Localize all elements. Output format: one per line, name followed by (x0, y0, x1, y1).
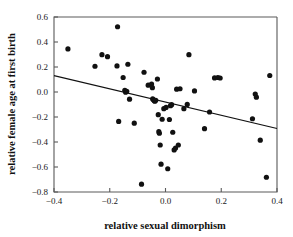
y-axis-title: relative female age at first birth (6, 33, 17, 175)
x-tick-label: −0.2 (102, 196, 118, 206)
plot-area-background (54, 17, 277, 192)
data-point (157, 131, 162, 136)
data-point (167, 117, 172, 122)
data-point (207, 109, 212, 114)
data-point (258, 138, 263, 143)
x-axis-tick-labels: −0.4−0.20.00.20.4 (46, 196, 283, 206)
data-point (124, 89, 129, 94)
data-point (158, 142, 163, 147)
data-point (127, 97, 132, 102)
data-point (170, 130, 175, 135)
data-point (132, 121, 137, 126)
data-point (121, 75, 126, 80)
data-point (99, 52, 104, 57)
y-tick-label: −0.8 (32, 187, 49, 197)
data-point (141, 70, 146, 75)
data-point (139, 182, 144, 187)
x-tick-label: 0.0 (160, 196, 172, 206)
data-point (158, 162, 163, 167)
data-point (192, 88, 197, 93)
data-point (267, 73, 272, 78)
y-axis-tick-labels: −0.8−0.6−0.4−0.20.00.20.40.6 (32, 12, 49, 197)
data-point (177, 86, 182, 91)
data-point (169, 102, 174, 107)
data-point (116, 119, 121, 124)
y-tick-label: −0.2 (32, 112, 48, 122)
data-point (156, 112, 161, 117)
x-tick-label: −0.4 (46, 196, 63, 206)
plot-frame (54, 17, 277, 192)
chart-canvas: −0.4−0.20.00.20.4 −0.8−0.6−0.4−0.20.00.2… (0, 0, 293, 237)
data-point (163, 105, 168, 110)
data-point (153, 98, 158, 103)
scatter-plot-figure: −0.4−0.20.00.20.4 −0.8−0.6−0.4−0.20.00.2… (0, 0, 293, 237)
data-point (160, 117, 165, 122)
data-point (92, 64, 97, 69)
y-tick-label: 0.6 (37, 12, 49, 22)
data-point (181, 106, 186, 111)
data-point (264, 175, 269, 180)
x-axis-title: relative sexual dimorphism (104, 220, 226, 231)
data-point (176, 142, 181, 147)
data-point (155, 76, 160, 81)
data-point (65, 46, 70, 51)
data-point (202, 126, 207, 131)
y-tick-label: −0.6 (32, 162, 49, 172)
data-point (186, 52, 191, 57)
y-tick-label: 0.2 (37, 62, 48, 72)
data-point (125, 62, 130, 67)
data-point (250, 116, 255, 121)
data-point (254, 95, 259, 100)
data-point (114, 63, 119, 68)
data-point (185, 102, 190, 107)
x-tick-label: 0.4 (271, 196, 283, 206)
data-point (115, 24, 120, 29)
y-tick-label: −0.4 (32, 137, 49, 147)
data-point (150, 85, 155, 90)
x-tick-label: 0.2 (216, 196, 227, 206)
y-tick-label: 0.0 (37, 87, 49, 97)
data-point (165, 166, 170, 171)
data-point (105, 54, 110, 59)
data-point (218, 75, 223, 80)
y-tick-label: 0.4 (37, 37, 49, 47)
